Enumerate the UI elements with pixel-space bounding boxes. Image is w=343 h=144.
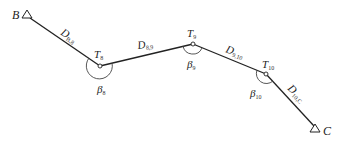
station-t9-icon (191, 42, 195, 46)
segment-t10-c (266, 74, 314, 126)
label-t10: T10 (262, 58, 274, 71)
station-t8-icon (98, 64, 102, 68)
label-d-89: D8,9 (136, 37, 154, 52)
label-beta-10: β10 (249, 87, 261, 100)
angle-arc-t8 (86, 58, 112, 79)
label-b: B (12, 8, 20, 22)
label-c: C (323, 124, 332, 138)
diagram-svg: B C T8 T9 T10 DB,8 D8,9 D9,10 D10,C β8 β… (0, 0, 343, 144)
label-t9: T9 (187, 27, 196, 40)
control-point-c-icon (310, 124, 320, 132)
traverse-diagram: B C T8 T9 T10 DB,8 D8,9 D9,10 D10,C β8 β… (0, 0, 343, 144)
label-d-b8: DB,8 (57, 25, 79, 46)
label-t8: T8 (94, 48, 103, 61)
label-beta-8: β8 (96, 83, 105, 96)
label-beta-9: β9 (186, 58, 195, 71)
station-t10-icon (264, 72, 268, 76)
label-d-10c: D10,C (284, 81, 308, 105)
control-point-b-icon (22, 10, 32, 18)
